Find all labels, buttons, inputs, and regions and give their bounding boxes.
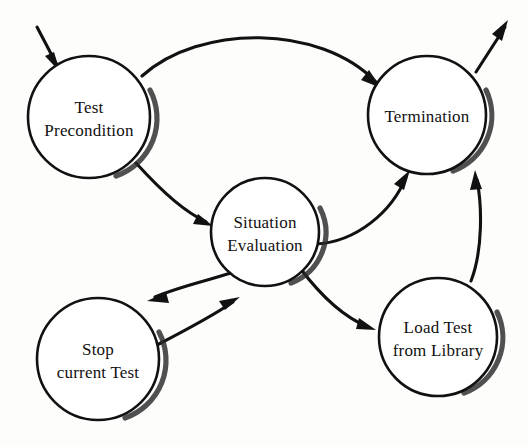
diagram-canvas: Test Precondition Termination Situation … [0, 0, 528, 446]
node-label-line1: Load Test [404, 318, 473, 337]
node-circle[interactable] [379, 278, 497, 396]
edge-stop-current-test-to-situation-evaluation [157, 297, 240, 345]
node-label-line1: Test [75, 98, 104, 117]
node-situation-evaluation[interactable]: Situation Evaluation [211, 178, 326, 286]
node-circle[interactable] [37, 298, 159, 420]
state-diagram: Test Precondition Termination Situation … [0, 0, 528, 446]
node-test-precondition[interactable]: Test Precondition [28, 56, 157, 178]
node-circle[interactable] [211, 178, 319, 286]
node-label-line1: Stop [82, 340, 114, 359]
arrowhead-icon [147, 292, 169, 303]
node-stop-current-test[interactable]: Stop current Test [37, 298, 166, 420]
node-circle[interactable] [28, 56, 150, 178]
node-label-line2: Precondition [44, 121, 134, 140]
node-load-test-from-library[interactable]: Load Test from Library [379, 278, 503, 396]
edge-load-test-to-termination [470, 170, 482, 281]
edge-termination-to-exit [476, 20, 508, 72]
edge-situation-evaluation-to-termination [316, 170, 410, 244]
edge-line [471, 180, 481, 281]
edge-test-precondition-to-situation-evaluation [136, 163, 213, 226]
node-label-line2: Evaluation [227, 236, 303, 255]
edge-line [155, 273, 231, 297]
edge-line [142, 38, 376, 82]
arrowhead-icon [492, 20, 508, 41]
node-label-line2: current Test [57, 363, 140, 382]
edge-line [136, 163, 206, 222]
node-label-line1: Situation [233, 213, 296, 232]
arrowhead-icon [470, 170, 482, 190]
arrowhead-icon [394, 170, 410, 190]
node-termination[interactable]: Termination [368, 56, 492, 174]
node-label-line2: from Library [393, 341, 484, 360]
edge-line [300, 268, 368, 327]
node-label-line1: Termination [384, 107, 469, 126]
edge-test-precondition-to-termination [142, 38, 381, 88]
edge-situation-evaluation-to-stop-current-test [147, 273, 231, 303]
edge-situation-evaluation-to-load-test [300, 268, 376, 330]
edge-line [157, 302, 233, 345]
edge-line [316, 177, 406, 244]
arrowhead-icon [356, 318, 376, 330]
